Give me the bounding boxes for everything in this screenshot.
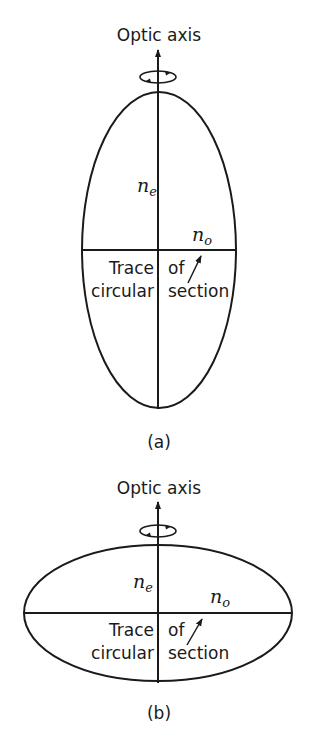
figure-a: Optic axis ne no Trace of circular secti…: [82, 25, 236, 452]
optic-axis-label: Optic axis: [117, 25, 202, 45]
figure-b: Optic axis ne no Trace of circular secti…: [24, 478, 292, 723]
caption-a: (a): [147, 432, 171, 452]
no-label: no: [210, 585, 230, 610]
circular-label: circular: [91, 643, 154, 663]
circular-label: circular: [91, 281, 154, 301]
ne-label: ne: [137, 174, 157, 199]
optic-axis-label: Optic axis: [117, 478, 202, 498]
trace-label: Trace: [108, 620, 154, 640]
pointer-arrow: [188, 256, 201, 283]
section-label: section: [168, 281, 229, 301]
pointer-arrow: [187, 619, 202, 645]
of-label: of: [168, 620, 185, 640]
no-label: no: [192, 223, 212, 248]
ne-label: ne: [133, 570, 153, 595]
trace-label: Trace: [108, 258, 154, 278]
caption-b: (b): [147, 703, 171, 723]
index-ellipsoid-diagram: Optic axis ne no Trace of circular secti…: [0, 0, 312, 745]
section-label: section: [168, 643, 229, 663]
of-label: of: [168, 258, 185, 278]
